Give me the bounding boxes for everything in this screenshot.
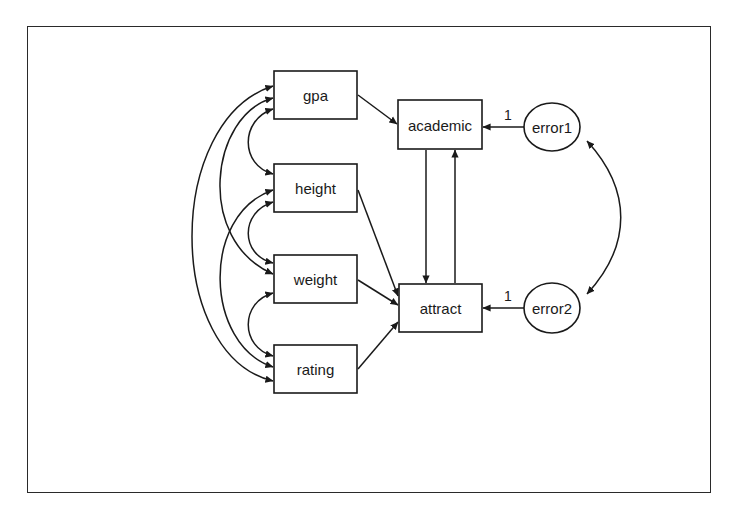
cov-height-weight <box>248 202 273 263</box>
path-weight-attract <box>358 280 398 305</box>
coef-error2-attract: 1 <box>504 288 512 304</box>
cov-gpa-weight <box>220 98 273 274</box>
node-label: gpa <box>303 87 329 104</box>
node-label: weight <box>293 271 338 288</box>
node-weight[interactable]: weight <box>274 255 357 303</box>
node-attract[interactable]: attract <box>399 284 482 332</box>
cov-error1-error2 <box>587 141 621 294</box>
node-height[interactable]: height <box>274 164 357 212</box>
node-label: attract <box>420 300 463 317</box>
node-label: academic <box>408 117 473 134</box>
node-academic[interactable]: academic <box>398 100 482 149</box>
node-gpa[interactable]: gpa <box>274 71 357 119</box>
path-rating-attract <box>358 322 398 369</box>
cov-height-rating <box>220 190 273 367</box>
covariance-arcs <box>192 86 273 381</box>
path-height-attract <box>358 190 398 296</box>
node-label: error1 <box>532 119 572 136</box>
node-rating[interactable]: rating <box>274 345 357 393</box>
path-gpa-academic <box>358 95 397 124</box>
node-label: rating <box>297 361 335 378</box>
path-diagram: 1 1 gpa height weight rating academic at… <box>0 0 737 513</box>
cov-gpa-rating <box>192 86 273 381</box>
node-error2[interactable]: error2 <box>524 283 580 333</box>
node-error1[interactable]: error1 <box>524 103 580 151</box>
coef-error1-academic: 1 <box>504 107 512 123</box>
node-label: height <box>295 180 337 197</box>
cov-weight-rating <box>248 293 273 356</box>
node-label: error2 <box>532 300 572 317</box>
cov-gpa-height <box>248 109 273 174</box>
